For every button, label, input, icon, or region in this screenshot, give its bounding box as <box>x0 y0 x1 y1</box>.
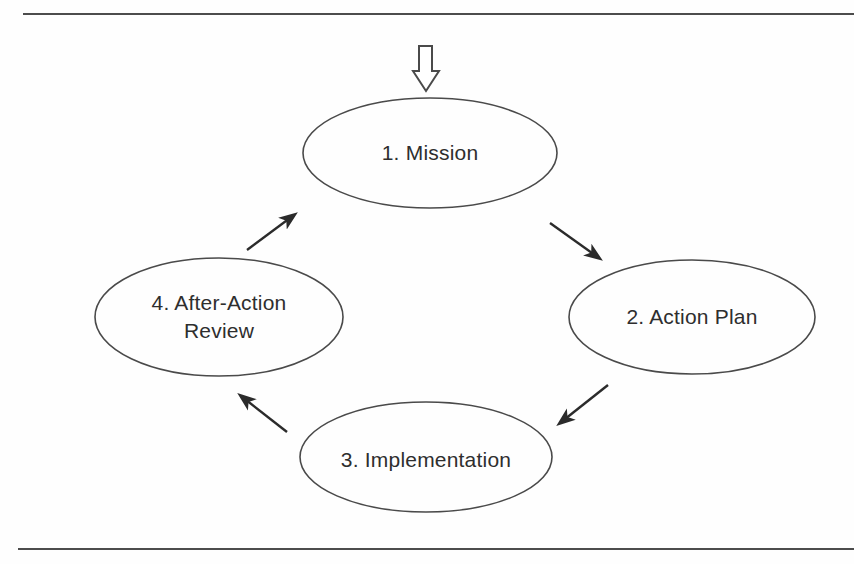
figure-canvas: 1. Mission 2. Action Plan 3. Implementat… <box>0 0 854 564</box>
node-label-action-plan-text: 2. Action Plan <box>626 303 757 331</box>
arrow-implementation-to-after-action-review <box>241 396 287 432</box>
node-label-action-plan: 2. Action Plan <box>592 297 792 337</box>
node-label-mission: 1. Mission <box>330 133 530 173</box>
node-label-after-action-review: 4. After-Action Review <box>119 287 319 347</box>
arrow-mission-to-action-plan <box>550 223 599 258</box>
node-label-implementation-text: 3. Implementation <box>341 446 511 474</box>
node-label-implementation: 3. Implementation <box>326 440 526 480</box>
down-arrow-icon <box>413 46 439 91</box>
arrow-after-action-review-to-mission <box>247 215 294 250</box>
arrow-action-plan-to-implementation <box>560 385 608 423</box>
node-label-mission-text: 1. Mission <box>382 139 479 167</box>
node-label-after-action-review-line2: Review <box>184 317 254 345</box>
node-label-after-action-review-line1: 4. After-Action <box>152 289 287 317</box>
